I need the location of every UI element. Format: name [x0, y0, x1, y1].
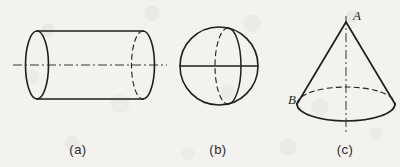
figure-page: A B (a) (b) (c): [0, 0, 400, 167]
cone-figure: [297, 16, 395, 134]
cylinder-figure: [13, 31, 167, 99]
cone-right-slant-edge: [346, 22, 395, 104]
caption-b: (b): [209, 142, 226, 157]
cone-left-slant-edge: [297, 22, 346, 104]
sphere-figure: [180, 27, 258, 105]
cone-base-point-label: B: [288, 92, 296, 108]
caption-a: (a): [69, 142, 86, 157]
cone-apex-label: A: [353, 8, 361, 24]
caption-c: (c): [337, 142, 354, 157]
